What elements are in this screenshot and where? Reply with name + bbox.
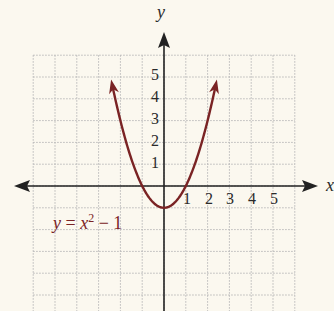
y-axis-label: y xyxy=(157,3,165,21)
equation-label: y = x2 − 1 xyxy=(53,211,122,234)
y-tick-1: 1 xyxy=(151,155,159,171)
equation-lhs: y xyxy=(53,213,61,233)
equation-rest: − 1 xyxy=(99,213,123,233)
y-tick-5: 5 xyxy=(151,67,159,83)
y-tick-3: 3 xyxy=(151,111,159,127)
x-tick-5: 5 xyxy=(270,191,278,207)
x-tick-1: 1 xyxy=(183,191,191,207)
x-tick-2: 2 xyxy=(205,191,213,207)
equation-exponent: 2 xyxy=(88,211,94,225)
axes xyxy=(14,32,318,311)
graph-plot xyxy=(0,0,334,311)
x-axis-label: x xyxy=(326,176,334,194)
equation-base: x xyxy=(80,213,88,233)
x-tick-3: 3 xyxy=(226,191,234,207)
x-tick-4: 4 xyxy=(248,191,256,207)
y-tick-2: 2 xyxy=(151,133,159,149)
y-tick-4: 4 xyxy=(151,89,159,105)
equation-equals: = xyxy=(66,213,76,233)
